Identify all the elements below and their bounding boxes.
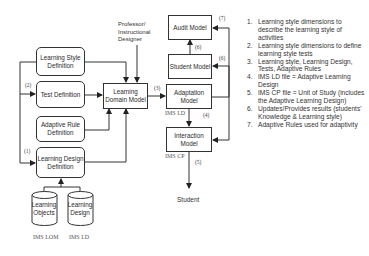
learning-domain-model-node: Learning Domain Model xyxy=(103,83,148,109)
interaction-model-node: Interaction Model xyxy=(166,127,212,152)
legend-item: 2.Learning style dimensions to define le… xyxy=(247,42,367,58)
edge-label-3: (3) xyxy=(154,85,160,91)
adaptation-model-node: Adaptation Model xyxy=(166,84,212,109)
edge-label-7: (7) xyxy=(219,15,225,21)
legend-item: 3.Learning style, Learning Design, Tests… xyxy=(247,58,367,74)
student-actor: Student xyxy=(177,196,199,204)
edge-label-2: (2) xyxy=(25,82,31,88)
student-model-node: Student Model xyxy=(168,54,212,79)
legend-item: 6.Updates/Provides results (students' Kn… xyxy=(247,105,367,121)
learning-design-db: Learning Design xyxy=(67,201,93,217)
node-label: Audit Model xyxy=(173,24,206,32)
node-label: Learning Domain Model xyxy=(104,88,147,104)
ims-cp-label: IMS CP xyxy=(165,153,185,161)
legend-item: 4.IMS LD file = Adaptive Learning Design xyxy=(247,73,367,89)
audit-model-node: Audit Model xyxy=(168,15,212,40)
node-label: Learning Style Definition xyxy=(37,54,84,70)
edge-label-1: (1) xyxy=(24,148,30,154)
edge-label-5: (5) xyxy=(195,159,201,165)
edge-label-6a: (6) xyxy=(195,44,201,50)
edge-label-4: (4) xyxy=(203,112,209,118)
test-definition-node: Test Definition xyxy=(36,81,85,108)
ims-ld-label: IMS LD xyxy=(165,110,185,118)
ims-ld-db-label: IMS LD xyxy=(69,234,89,242)
legend-list: 1.Learning style dimensions to describe … xyxy=(247,18,367,129)
node-label: Adaptive Rule Definition xyxy=(37,121,84,137)
legend-item: 7.Adaptive Rules used for adaptivity xyxy=(247,121,367,129)
adaptive-rule-definition-node: Adaptive Rule Definition xyxy=(36,116,85,142)
node-label: Student Model xyxy=(170,63,211,71)
node-label: Learning Design Definition xyxy=(37,155,84,171)
node-label: Interaction Model xyxy=(167,132,211,148)
professor-actor: Professor/ Instructional Designer xyxy=(118,21,168,44)
legend-item: 5.IMS CP file = Unit of Study (includes … xyxy=(247,89,367,105)
legend-item: 1.Learning style dimensions to describe … xyxy=(247,18,367,42)
node-label: Test Definition xyxy=(41,91,81,99)
learning-style-definition-node: Learning Style Definition xyxy=(36,47,85,76)
ims-lom-label: IMS LOM xyxy=(33,234,59,242)
learning-design-definition-node: Learning Design Definition xyxy=(36,147,85,178)
edge-label-6b: (6) xyxy=(219,55,225,61)
learning-objects-db: Learning Objects xyxy=(31,201,57,217)
node-label: Adaptation Model xyxy=(167,89,211,105)
